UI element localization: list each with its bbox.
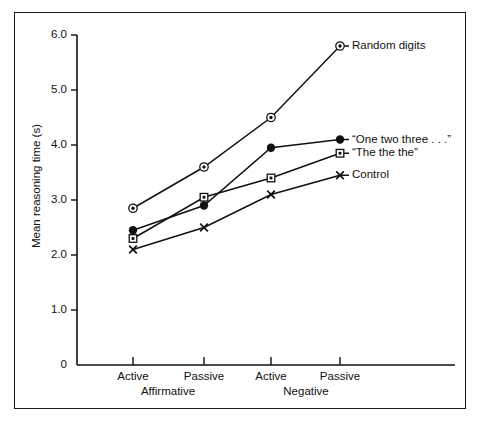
series-line-the-the-the	[133, 153, 340, 238]
y-tick-label-0: 0	[33, 358, 67, 370]
x-tick-label-2: Passive	[169, 370, 239, 382]
x-tick-label-3: Active	[236, 370, 306, 382]
x-tick-label-1: Active	[98, 370, 168, 382]
x-tick-label-4: Passive	[305, 370, 375, 382]
y-tick-label-5: 5.0	[33, 83, 67, 95]
figure-container: 6.0 5.0 4.0 3.0 2.0 1.0 0 Mean reasoning…	[0, 0, 484, 424]
series-line-control	[133, 175, 340, 249]
x-group-label-negative: Negative	[246, 385, 366, 397]
x-group-label-affirmative: Affirmative	[108, 385, 228, 397]
markers-random-digits	[129, 42, 344, 213]
series-line-one-two-three	[133, 140, 340, 231]
series-label-control: Control	[352, 168, 389, 180]
series-label-one-two-three: “One two three . . .”	[352, 133, 451, 145]
chart-plot-area	[0, 0, 484, 424]
series-label-random-digits: Random digits	[352, 39, 426, 51]
y-tick-label-6: 6.0	[33, 28, 67, 40]
series-label-the-the-the: “The the the”	[352, 146, 418, 158]
markers-one-two-three	[129, 135, 344, 234]
y-tick-label-2: 2.0	[33, 248, 67, 260]
y-tick-label-1: 1.0	[33, 303, 67, 315]
y-axis-title: Mean reasoning time (s)	[30, 124, 42, 248]
